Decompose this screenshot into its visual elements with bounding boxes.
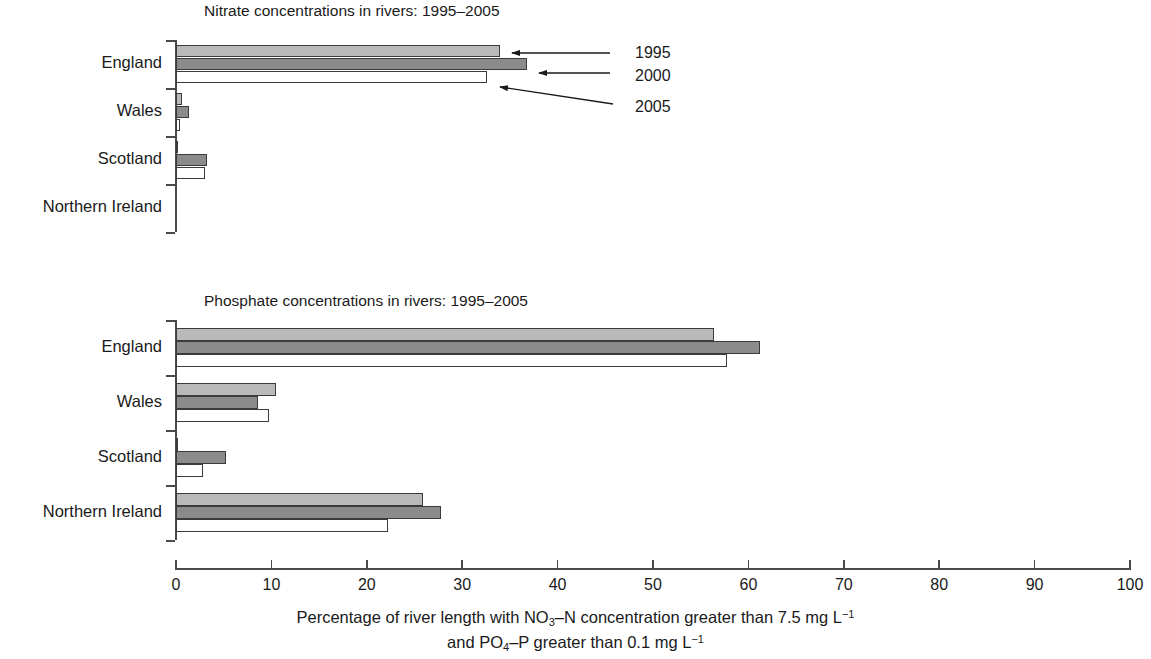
chart-figure: Nitrate concentrations in rivers: 1995–2… xyxy=(0,0,1151,659)
y-axis-tick-phosphate-2 xyxy=(166,430,175,432)
x-axis-caption-line2: and PO4–P greater than 0.1 mg L−1 xyxy=(0,633,1151,653)
y-axis-tick-phosphate-1 xyxy=(166,375,175,377)
bar-phosphate-northern-ireland-1995 xyxy=(176,493,423,506)
x-axis-label-100: 100 xyxy=(1090,576,1151,594)
annotation-label-1995: 1995 xyxy=(635,44,671,62)
x-axis-tick-100 xyxy=(1129,560,1131,568)
caption-l2-b: –P greater than 0.1 mg L xyxy=(509,633,691,651)
bar-nitrate-scotland-2000 xyxy=(176,154,207,167)
x-axis-label-20: 20 xyxy=(327,576,407,594)
bar-phosphate-northern-ireland-2000 xyxy=(176,506,441,519)
category-label-phosphate-wales: Wales xyxy=(0,392,162,411)
y-axis-tick-nitrate-2 xyxy=(166,136,175,138)
phosphate-chart-title: Phosphate concentrations in rivers: 1995… xyxy=(204,292,528,310)
x-axis-label-50: 50 xyxy=(613,576,693,594)
x-axis-label-0: 0 xyxy=(136,576,216,594)
caption-l1-b: –N concentration greater than 7.5 mg L xyxy=(555,608,842,626)
x-axis-tick-10 xyxy=(271,560,273,568)
x-axis-tick-70 xyxy=(843,560,845,568)
y-axis-tick-nitrate-end xyxy=(166,232,175,234)
bar-phosphate-england-1995 xyxy=(176,328,714,341)
x-axis-tick-60 xyxy=(748,560,750,568)
caption-l2-sup: −1 xyxy=(691,633,704,645)
x-axis-tick-30 xyxy=(461,560,463,568)
arrow-2005 xyxy=(500,87,613,104)
category-label-phosphate-scotland: Scotland xyxy=(0,447,162,466)
annotation-label-2000: 2000 xyxy=(635,67,671,85)
x-axis-label-40: 40 xyxy=(518,576,598,594)
y-axis-tick-nitrate-0 xyxy=(166,40,175,42)
category-label-phosphate-england: England xyxy=(0,337,162,356)
x-axis-tick-40 xyxy=(557,560,559,568)
caption-l2-a: and PO xyxy=(447,633,503,651)
caption-l1-a: Percentage of river length with NO xyxy=(297,608,549,626)
bar-nitrate-england-2000 xyxy=(176,58,527,71)
y-axis-tick-phosphate-0 xyxy=(166,320,175,322)
bar-nitrate-scotland-1995 xyxy=(176,141,178,154)
bar-phosphate-wales-1995 xyxy=(176,383,276,396)
bar-phosphate-wales-2005 xyxy=(176,409,269,422)
x-axis-label-10: 10 xyxy=(231,576,311,594)
bar-nitrate-wales-2000 xyxy=(176,106,189,119)
category-label-phosphate-northern-ireland: Northern Ireland xyxy=(0,502,162,521)
y-axis-tick-phosphate-3 xyxy=(166,485,175,487)
bar-phosphate-england-2005 xyxy=(176,354,727,367)
bar-phosphate-northern-ireland-2005 xyxy=(176,519,388,532)
bar-phosphate-wales-2000 xyxy=(176,396,258,409)
x-axis-tick-90 xyxy=(1034,560,1036,568)
y-axis-tick-nitrate-3 xyxy=(166,184,175,186)
x-axis-line xyxy=(175,568,1131,570)
y-axis-tick-phosphate-end xyxy=(166,540,175,542)
x-axis-label-60: 60 xyxy=(708,576,788,594)
x-axis-label-80: 80 xyxy=(899,576,979,594)
annotation-label-2005: 2005 xyxy=(635,98,671,116)
x-axis-tick-0 xyxy=(175,560,177,568)
x-axis-tick-50 xyxy=(652,560,654,568)
x-axis-tick-80 xyxy=(938,560,940,568)
x-axis-label-70: 70 xyxy=(804,576,884,594)
x-axis-label-90: 90 xyxy=(995,576,1075,594)
category-label-nitrate-scotland: Scotland xyxy=(0,149,162,168)
bar-phosphate-scotland-2005 xyxy=(176,464,203,477)
bar-nitrate-england-2005 xyxy=(176,71,487,84)
nitrate-chart-title: Nitrate concentrations in rivers: 1995–2… xyxy=(204,2,500,20)
x-axis-caption-line1: Percentage of river length with NO3–N co… xyxy=(0,608,1151,628)
bar-phosphate-scotland-1995 xyxy=(176,438,178,451)
bar-phosphate-england-2000 xyxy=(176,341,760,354)
bar-nitrate-wales-1995 xyxy=(176,93,182,106)
x-axis-label-30: 30 xyxy=(422,576,502,594)
y-axis-tick-nitrate-1 xyxy=(166,88,175,90)
x-axis-tick-20 xyxy=(366,560,368,568)
bar-phosphate-scotland-2000 xyxy=(176,451,226,464)
category-label-nitrate-england: England xyxy=(0,53,162,72)
category-label-nitrate-northern-ireland: Northern Ireland xyxy=(0,197,162,216)
bar-nitrate-wales-2005 xyxy=(176,119,180,132)
category-label-nitrate-wales: Wales xyxy=(0,101,162,120)
bar-nitrate-scotland-2005 xyxy=(176,167,205,180)
bar-nitrate-england-1995 xyxy=(176,45,500,58)
caption-l1-sup: −1 xyxy=(842,608,855,620)
